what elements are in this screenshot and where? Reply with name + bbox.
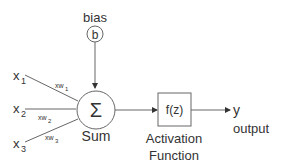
output-symbol: y [233, 102, 240, 118]
weight-w2: xw 2 [38, 114, 52, 124]
svg-text:x: x [13, 68, 20, 83]
svg-text:x: x [13, 136, 20, 151]
svg-text:1: 1 [21, 76, 26, 86]
svg-text:2: 2 [21, 109, 26, 119]
input-x1: x 1 [13, 68, 26, 86]
input-x2: x 2 [13, 101, 26, 119]
input-x3: x 3 [13, 136, 26, 154]
activation-symbol: f(z) [166, 103, 183, 117]
sum-label: Sum [82, 128, 111, 144]
bias-label: bias [83, 10, 107, 25]
activation-label-line1: Activation [146, 131, 202, 146]
activation-label-line2: Function [149, 148, 199, 163]
weight-w3: xw 3 [45, 134, 59, 144]
sigma-icon: Σ [90, 99, 102, 121]
svg-text:1: 1 [65, 86, 69, 92]
svg-text:3: 3 [55, 138, 59, 144]
svg-text:x: x [13, 101, 20, 116]
svg-text:xw: xw [45, 134, 55, 141]
svg-text:xw: xw [38, 114, 48, 121]
svg-text:2: 2 [48, 118, 52, 124]
input-edge-1 [25, 75, 78, 101]
perceptron-diagram: bias b x 1 xw 1 x 2 xw 2 x 3 xw 3 Σ Sum … [0, 0, 286, 168]
output-label: output [233, 121, 270, 136]
bias-symbol: b [92, 28, 99, 42]
svg-text:3: 3 [21, 144, 26, 154]
svg-text:xw: xw [55, 82, 65, 89]
